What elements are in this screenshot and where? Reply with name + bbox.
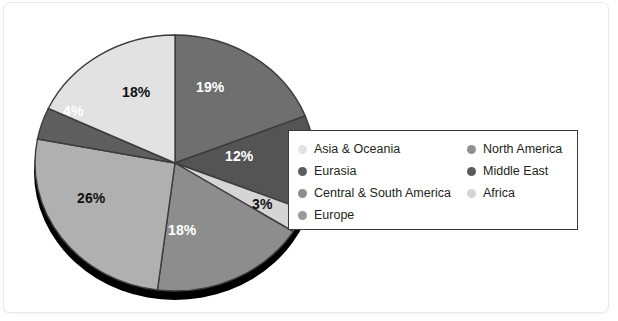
- legend-item-label: Eurasia: [314, 165, 356, 178]
- legend-item-label: Africa: [483, 187, 515, 200]
- legend-item-label: Europe: [314, 209, 354, 222]
- chart-legend: Asia & OceaniaEurasiaCentral & South Ame…: [288, 130, 578, 230]
- pie-slice: [35, 139, 175, 290]
- legend-item[interactable]: North America: [467, 138, 575, 160]
- legend-swatch-icon: [467, 167, 476, 176]
- legend-item[interactable]: Central & South America: [298, 182, 468, 204]
- legend-swatch-icon: [467, 189, 476, 198]
- legend-swatch-icon: [298, 189, 307, 198]
- legend-item-label: Asia & Oceania: [314, 143, 400, 156]
- chart-container: 19%12%3%18%26%4%18% Asia & OceaniaEurasi…: [0, 0, 618, 321]
- pie-chart-area: 19%12%3%18%26%4%18%: [0, 0, 330, 321]
- legend-item[interactable]: Asia & Oceania: [298, 138, 468, 160]
- legend-swatch-icon: [298, 145, 307, 154]
- legend-item-label: Central & South America: [314, 187, 451, 200]
- pie-slices: [35, 35, 315, 291]
- legend-swatch-icon: [298, 167, 307, 176]
- legend-column-right: North AmericaMiddle EastAfrica: [467, 138, 575, 204]
- pie-chart-svg: [0, 0, 330, 321]
- legend-item[interactable]: Middle East: [467, 160, 575, 182]
- legend-item[interactable]: Europe: [298, 204, 468, 226]
- legend-column-left: Asia & OceaniaEurasiaCentral & South Ame…: [298, 138, 468, 226]
- legend-item[interactable]: Eurasia: [298, 160, 468, 182]
- legend-item-label: North America: [483, 143, 562, 156]
- legend-swatch-icon: [298, 211, 307, 220]
- legend-item[interactable]: Africa: [467, 182, 575, 204]
- legend-item-label: Middle East: [483, 165, 548, 178]
- legend-swatch-icon: [467, 145, 476, 154]
